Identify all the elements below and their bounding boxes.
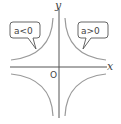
- curve-quadrant-4: [65, 74, 106, 116]
- callout-a-positive: a>0: [78, 22, 108, 49]
- curve-quadrant-3: [11, 74, 53, 116]
- hyperbola-diagram: y x O a<0 a>0: [0, 0, 121, 124]
- origin-label: O: [50, 70, 57, 80]
- callout-a-negative-text: a<0: [14, 26, 33, 36]
- callout-a-positive-text: a>0: [81, 26, 100, 36]
- y-axis-label: y: [54, 0, 62, 12]
- callout-a-negative: a<0: [10, 22, 40, 49]
- x-axis-label: x: [107, 60, 114, 73]
